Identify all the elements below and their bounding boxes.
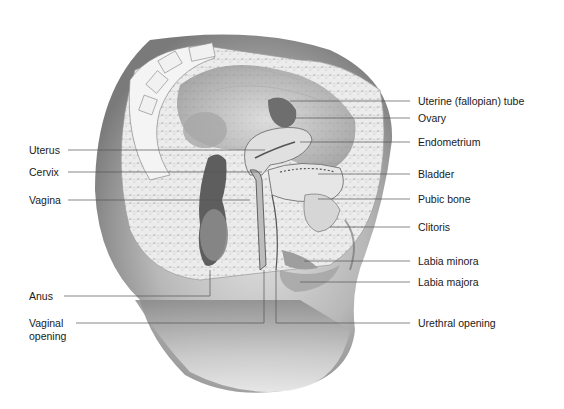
label-ovary: Ovary [418,112,446,124]
label-uterine-tube: Uterine (fallopian) tube [418,95,524,107]
label-urethral-opening: Urethral opening [418,317,496,329]
anatomy-figure: Uterus Cervix Vagina Anus Vaginal openin… [0,0,564,409]
anatomy-illustration [0,0,564,409]
label-bladder: Bladder [418,168,454,180]
label-endometrium: Endometrium [418,136,480,148]
label-labia-minora: Labia minora [418,255,479,267]
label-anus: Anus [29,290,53,302]
label-pubic-bone: Pubic bone [418,193,471,205]
label-vagina: Vagina [29,194,61,206]
label-labia-majora: Labia majora [418,276,479,288]
label-vaginal-opening-line1: Vaginal [29,317,63,329]
rectum-bulb [183,112,227,148]
label-clitoris: Clitoris [418,221,450,233]
label-vaginal-opening-line2: opening [29,330,66,342]
label-uterus: Uterus [29,144,60,156]
label-cervix: Cervix [29,166,59,178]
